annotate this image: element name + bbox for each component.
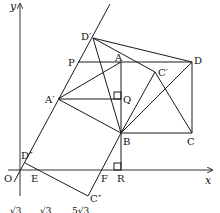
diagonal-BD xyxy=(121,62,192,133)
label-P: P xyxy=(68,57,75,68)
label-F: F xyxy=(101,173,108,184)
label-B: B xyxy=(123,136,130,147)
bottom-text-2: √3 xyxy=(40,206,52,213)
label-E: E xyxy=(31,173,38,184)
right-angle-R xyxy=(114,163,121,170)
bottom-text-1: √3 xyxy=(10,206,22,213)
segment-DprimeD xyxy=(93,38,192,62)
label-R: R xyxy=(117,173,125,184)
segment-AprimeB xyxy=(58,99,121,133)
y-axis-label: y xyxy=(9,0,17,13)
segment-BCdprime xyxy=(88,133,121,196)
geometry-diagram: y x O D′ P A D C′ A′ Q B C D″ E F R C″ √… xyxy=(0,0,220,213)
label-A: A xyxy=(114,52,123,63)
segment-DprimeCprime xyxy=(93,38,155,72)
label-C: C xyxy=(187,136,195,147)
label-Aprime: A′ xyxy=(44,94,55,105)
label-Cprime: C′ xyxy=(158,67,169,78)
label-D: D xyxy=(194,55,202,66)
right-angle-Q xyxy=(114,92,121,99)
bottom-text-3: 5√3 xyxy=(72,206,89,213)
label-Ddprime: D″ xyxy=(21,150,33,161)
label-Dprime: D′ xyxy=(81,31,92,42)
label-Q: Q xyxy=(123,94,131,105)
origin-label: O xyxy=(4,173,12,184)
x-axis-label: x xyxy=(205,174,212,187)
label-Cdprime: C″ xyxy=(90,193,102,204)
